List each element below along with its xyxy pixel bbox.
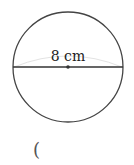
circle-diagram: 8 cm xyxy=(0,0,134,140)
center-point xyxy=(66,65,70,69)
diameter-label: 8 cm xyxy=(51,48,85,64)
answer-open-paren: ( xyxy=(33,141,40,159)
